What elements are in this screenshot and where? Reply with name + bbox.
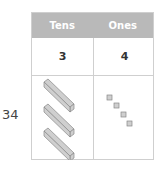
- ones-cubes-icon: [94, 76, 154, 160]
- header-tens: Tens: [32, 13, 93, 38]
- table-header: Tens Ones: [32, 13, 153, 38]
- tens-rods-icon: [32, 76, 93, 160]
- number-label: 34: [2, 107, 19, 122]
- tens-value: 3: [32, 38, 93, 75]
- ones-value: 4: [94, 38, 155, 75]
- header-ones: Ones: [93, 13, 154, 38]
- place-value-table: Tens Ones 3 4: [31, 12, 154, 160]
